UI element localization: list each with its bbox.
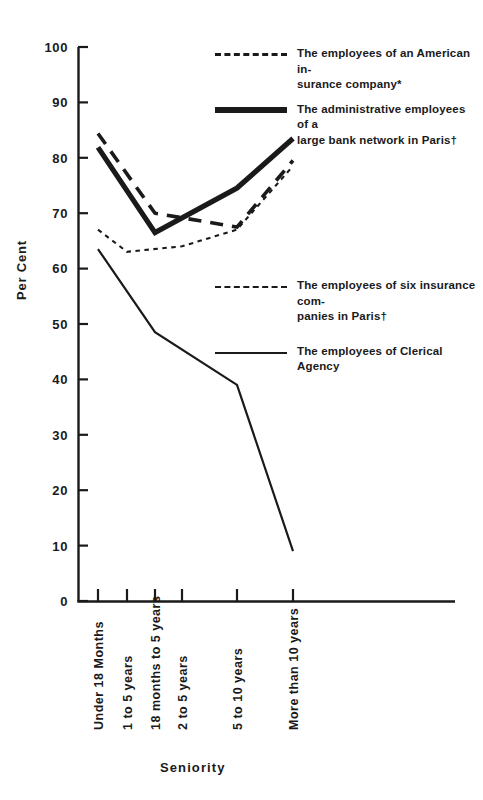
legend-item-american-insurance-company: The employees of an American in-surance … [215,46,479,93]
y-axis-title: Per Cent [14,240,29,300]
y-tick-label-80: 80 [28,152,68,165]
legend-label-line2: surance company* [297,78,402,90]
legend-label-line1: The employees of six insurance com- [297,279,475,307]
legend-label-line2: panies in Paris† [297,310,387,322]
y-tick-label-0: 0 [28,595,68,608]
y-tick-label-60: 60 [28,262,68,275]
legend-swatch-thin-solid-line [215,344,287,360]
legend-label-clerical-agency: The employees of Clerical Agency [297,344,479,375]
x-tick-label-2-to-5-years: 2 to 5 years [176,655,190,730]
legend-item-paris-bank-network: The administrative employees of alarge b… [215,102,479,149]
y-tick-label-90: 90 [28,96,68,109]
y-tick-label-40: 40 [28,373,68,386]
x-tick-label-5-to-10-years: 5 to 10 years [231,648,245,730]
legend-swatch-long-dashed-line [215,46,287,62]
y-tick-label-50: 50 [28,318,68,331]
y-tick-label-70: 70 [28,207,68,220]
y-tick-label-100: 100 [28,41,68,54]
legend-swatch-thick-solid-line [215,102,287,118]
x-axis-ticks [98,589,293,601]
y-tick-label-30: 30 [28,429,68,442]
x-tick-label-more-than-10-years: More than 10 years [287,608,301,730]
legend-label-paris-bank-network: The administrative employees of alarge b… [297,102,479,149]
legend-label-line2: large bank network in Paris† [297,134,457,146]
x-tick-label-1-to-5-years: 1 to 5 years [121,655,135,730]
y-tick-label-20: 20 [28,484,68,497]
x-axis-title: Seniority [160,760,226,775]
legend-item-six-insurance-companies: The employees of six insurance com-panie… [215,278,479,325]
legend-label-line1: The employees of Clerical Agency [297,345,443,373]
chart-figure: 100 90 80 70 60 50 40 30 20 10 0 Per Cen… [0,0,483,800]
legend-label-six-insurance-companies: The employees of six insurance com-panie… [297,278,479,325]
y-tick-label-10: 10 [28,540,68,553]
x-tick-label-under-18-months: Under 18 Months [92,621,106,730]
legend-bottom: The employees of six insurance com-panie… [215,278,479,382]
legend-swatch-dotted-line [215,278,287,294]
legend-label-american-insurance-company: The employees of an American in-surance … [297,46,479,93]
legend-label-line1: The employees of an American in- [297,47,470,75]
legend-top: The employees of an American in-surance … [215,46,479,155]
legend-item-clerical-agency: The employees of Clerical Agency [215,344,479,375]
legend-label-line1: The administrative employees of a [297,103,465,131]
x-tick-label-18-months-to-5-years: 18 months to 5 years [149,596,163,730]
